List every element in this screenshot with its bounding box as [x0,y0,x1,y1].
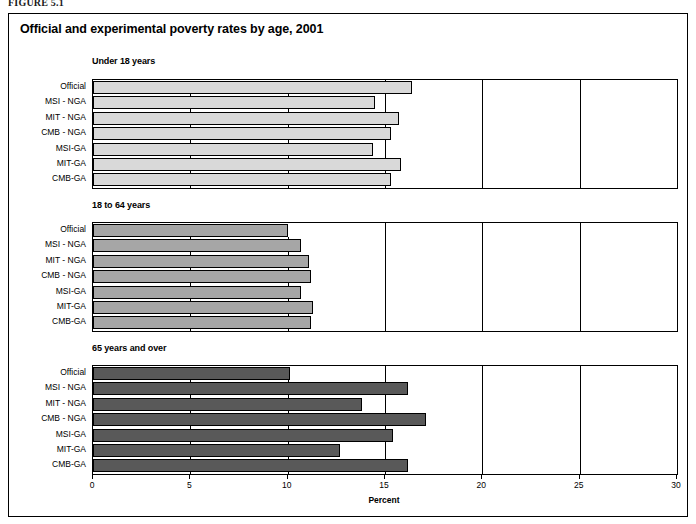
x-axis-tick-label: 0 [90,480,95,490]
bar-row [93,158,677,171]
bar [93,255,309,268]
bar [93,158,401,171]
category-label: MIT-GA [2,443,86,456]
bar [93,413,426,426]
x-axis-tick [287,475,288,479]
bar-row [93,286,677,299]
bar [93,143,373,156]
category-label: Official [2,223,86,236]
bar-row [93,459,677,472]
category-label: CMB - NGA [2,126,86,139]
category-label: CMB-GA [2,458,86,471]
category-label: MIT-GA [2,300,86,313]
bar-row [93,270,677,283]
category-label: MSI-GA [2,285,86,298]
category-label: MSI-GA [2,142,86,155]
bar-row [93,173,677,186]
bar [93,429,393,442]
category-label: MSI - NGA [2,95,86,108]
figure-title: Official and experimental poverty rates … [20,22,323,36]
bar-row [93,224,677,237]
category-label: MSI - NGA [2,381,86,394]
category-label: Official [2,366,86,379]
bar [93,127,391,140]
panel-title: 18 to 64 years [92,200,150,210]
category-label: CMB - NGA [2,412,86,425]
bar [93,96,375,109]
bar [93,316,311,329]
bar-row [93,81,677,94]
category-label: Official [2,80,86,93]
category-label: MSI - NGA [2,238,86,251]
x-axis-tick [189,475,190,479]
bar-row [93,382,677,395]
category-label: CMB-GA [2,315,86,328]
bar-row [93,127,677,140]
bar [93,382,408,395]
category-label: MSI-GA [2,428,86,441]
bar [93,398,362,411]
x-axis-tick [676,475,677,479]
x-axis-title: Percent [368,495,399,505]
bar-row [93,367,677,380]
bar [93,112,399,125]
row-tick [288,329,289,332]
x-axis-tick-label: 15 [379,480,388,490]
row-tick [190,186,191,189]
category-label: MIT - NGA [2,111,86,124]
plot-area [92,365,678,475]
bar-row [93,398,677,411]
x-axis-tick [92,475,93,479]
bar [93,239,301,252]
x-axis-tick-label: 20 [477,480,486,490]
plot-area [92,222,678,332]
bar [93,173,391,186]
row-tick [288,186,289,189]
bar-row [93,301,677,314]
bar [93,444,340,457]
plot-area [92,79,678,189]
bar [93,367,290,380]
x-axis-tick-label: 25 [574,480,583,490]
bar-row [93,96,677,109]
bar-row [93,444,677,457]
category-label: MIT-GA [2,157,86,170]
bar [93,81,412,94]
bar-row [93,316,677,329]
bar [93,224,288,237]
panel-title: 65 years and over [92,343,166,353]
figure-number-label: FIGURE 5.1 [8,0,64,8]
x-axis: Percent 051015202530 [92,475,676,501]
x-axis-tick [579,475,580,479]
category-label: MIT - NGA [2,397,86,410]
bar [93,286,301,299]
bar-row [93,255,677,268]
bar-row [93,143,677,156]
bar-row [93,413,677,426]
bar [93,301,313,314]
row-tick [190,329,191,332]
category-label: MIT - NGA [2,254,86,267]
bar-row [93,239,677,252]
panel-title: Under 18 years [92,56,155,66]
x-axis-tick-label: 10 [282,480,291,490]
category-label: CMB - NGA [2,269,86,282]
bar-row [93,112,677,125]
x-axis-tick-label: 30 [671,480,680,490]
x-axis-tick [481,475,482,479]
category-label: CMB-GA [2,172,86,185]
bar-row [93,429,677,442]
bar [93,459,408,472]
x-axis-tick-label: 5 [187,480,192,490]
figure-page: FIGURE 5.1 Official and experimental pov… [0,0,696,524]
x-axis-tick [384,475,385,479]
bar [93,270,311,283]
